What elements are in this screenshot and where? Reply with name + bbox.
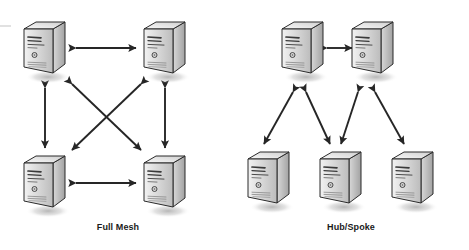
group-hub-spoke [248, 22, 438, 214]
spoke-server-right[interactable] [392, 152, 438, 214]
group-label-full-mesh: Full Mesh [97, 222, 139, 232]
hub-server-right[interactable] [352, 22, 398, 84]
spoke-server-mid[interactable] [320, 152, 366, 214]
link-hub2-spoke3 [375, 92, 404, 144]
link-hub1-spoke1 [264, 92, 293, 144]
hub-server-left[interactable] [282, 22, 328, 84]
spoke-server-left[interactable] [248, 152, 294, 214]
server-top-left[interactable] [24, 22, 70, 84]
topology-diagram-canvas: Full Mesh Hub/Spoke [0, 0, 469, 250]
hub-spoke-nodes [248, 22, 438, 214]
topology-vector-layer [0, 0, 469, 250]
server-bottom-right[interactable] [144, 156, 190, 218]
group-label-hub-spoke: Hub/Spoke [327, 222, 375, 232]
server-bottom-left[interactable] [24, 156, 70, 218]
server-top-right[interactable] [144, 22, 190, 84]
group-full-mesh [24, 22, 190, 218]
link-hub1-spoke2 [306, 92, 330, 144]
link-hub2-spoke2 [341, 92, 358, 144]
